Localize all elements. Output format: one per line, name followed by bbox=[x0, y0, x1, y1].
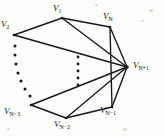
graph-edge-vNm3-vNp1 bbox=[31, 67, 127, 105]
vertex-label-vNp1: VN+1 bbox=[133, 61, 149, 70]
center-ellipsis-dot-1 bbox=[77, 63, 80, 66]
vertex-label-subscript: N−3 bbox=[9, 110, 20, 117]
graph-figure: V1VNV2VN−3VN−2VN−1VN+1 bbox=[0, 0, 165, 136]
vertex-label-v1: V1 bbox=[53, 4, 61, 13]
scan-speck-4 bbox=[95, 4, 98, 6]
left-ellipsis-dot-3 bbox=[17, 72, 20, 75]
vertex-label-subscript: N bbox=[108, 15, 112, 22]
center-ellipsis-dot-2 bbox=[77, 70, 80, 73]
graph-edge-v2-v1 bbox=[14, 18, 62, 35]
vertex-label-subscript: 2 bbox=[6, 23, 9, 30]
scan-speck-2 bbox=[7, 128, 10, 130]
center-ellipsis-dot-4 bbox=[77, 84, 80, 87]
vertex-label-subscript: 1 bbox=[58, 7, 61, 14]
left-ellipsis-dot-5 bbox=[24, 88, 27, 91]
left-ellipsis-dot-2 bbox=[15, 63, 18, 66]
graph-edge-vNm3-vNm2 bbox=[31, 105, 66, 118]
vertex-label-v2: V2 bbox=[1, 20, 9, 29]
vertex-node-vNm3 bbox=[30, 104, 33, 107]
vertex-label-subscript: N+1 bbox=[138, 64, 149, 71]
scan-speck-0 bbox=[149, 9, 153, 12]
vertex-label-subscript: N−1 bbox=[105, 109, 116, 116]
vertex-node-vNm2 bbox=[65, 117, 68, 120]
vertex-node-vN bbox=[109, 26, 112, 29]
vertex-node-vNp1 bbox=[125, 65, 129, 69]
vertex-label-subscript: N−2 bbox=[59, 123, 70, 130]
vertex-node-v1 bbox=[61, 17, 64, 20]
center-ellipsis-dot-3 bbox=[77, 77, 80, 80]
edge-layer bbox=[14, 18, 127, 118]
left-ellipsis-dot-1 bbox=[14, 54, 17, 57]
scan-speck-1 bbox=[141, 20, 144, 22]
left-ellipsis-dot-0 bbox=[14, 45, 17, 48]
scan-speck-3 bbox=[123, 128, 127, 131]
vertex-label-vNm1: VN−1 bbox=[100, 106, 116, 115]
graph-edge-vN-vNm1 bbox=[110, 27, 112, 107]
vertex-node-v2 bbox=[13, 34, 16, 37]
left-ellipsis-dot-4 bbox=[20, 80, 23, 83]
left-ellipsis-dot-6 bbox=[29, 95, 32, 98]
vertex-label-vNm2: VN−2 bbox=[54, 120, 70, 129]
vertex-label-vNm3: VN−3 bbox=[4, 107, 20, 116]
vertex-label-vN: VN bbox=[103, 12, 113, 21]
center-ellipsis-dot-0 bbox=[77, 56, 80, 59]
